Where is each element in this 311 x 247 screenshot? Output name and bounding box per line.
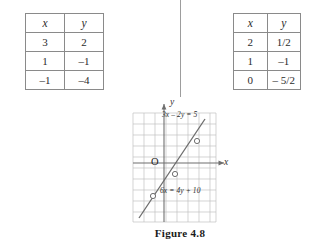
table-row: –1 –4 [26, 71, 104, 90]
table-right-body: x y 2 1/2 1 –1 0 – 5/2 [234, 14, 301, 90]
table-left-cell-x-1: 1 [26, 52, 65, 71]
table-right-cell-y-2: – 5/2 [267, 71, 301, 90]
table-left: x y 3 2 1 –1 –1 –4 [25, 13, 104, 90]
table-left-cell-y-2: –4 [65, 71, 104, 90]
data-point-marker [150, 193, 155, 198]
vertical-divider [180, 0, 181, 97]
table-right-header-y: y [267, 14, 301, 33]
equation-label-top: 3x – 2y = 5 [162, 110, 197, 119]
table-row: 1 –1 [26, 52, 104, 71]
table-row: 0 – 5/2 [234, 71, 301, 90]
figure-caption: Figure 4.8 [120, 227, 240, 239]
plotted-line [139, 119, 205, 218]
origin-label: O [151, 156, 159, 167]
table-row: 3 2 [26, 33, 104, 52]
equation-label-bottom: 6x = 4y + 10 [160, 186, 200, 195]
table-right-header-x: x [234, 14, 268, 33]
table-left-cell-x-2: –1 [26, 71, 65, 90]
table-right-cell-x-2: 0 [234, 71, 268, 90]
graph-figure: y x O 3x – 2y = 5 6x = 4y + 10 Figure 4.… [120, 96, 240, 247]
y-axis-arrowhead [162, 104, 167, 110]
table-right-cell-x-1: 1 [234, 52, 268, 71]
table-left-cell-y-0: 2 [65, 33, 104, 52]
table-left-body: x y 3 2 1 –1 –1 –4 [26, 14, 104, 90]
table-right-cell-x-0: 2 [234, 33, 268, 52]
table-right: x y 2 1/2 1 –1 0 – 5/2 [233, 13, 301, 90]
data-point-marker [194, 138, 199, 143]
table-right-cell-y-0: 1/2 [267, 33, 301, 52]
figure-page: x y 3 2 1 –1 –1 –4 x y 2 [0, 0, 311, 247]
x-axis-label: x [224, 157, 228, 167]
table-row: 2 1/2 [234, 33, 301, 52]
y-axis-label: y [170, 97, 174, 107]
grid-lines [133, 113, 216, 222]
table-right-cell-y-1: –1 [267, 52, 301, 71]
table-header-row: x y [26, 14, 104, 33]
table-left-header-x: x [26, 14, 65, 33]
data-point-marker [172, 171, 177, 176]
table-row: 1 –1 [234, 52, 301, 71]
table-left-header-y: y [65, 14, 104, 33]
table-left-cell-x-0: 3 [26, 33, 65, 52]
table-left-cell-y-1: –1 [65, 52, 104, 71]
table-header-row: x y [234, 14, 301, 33]
